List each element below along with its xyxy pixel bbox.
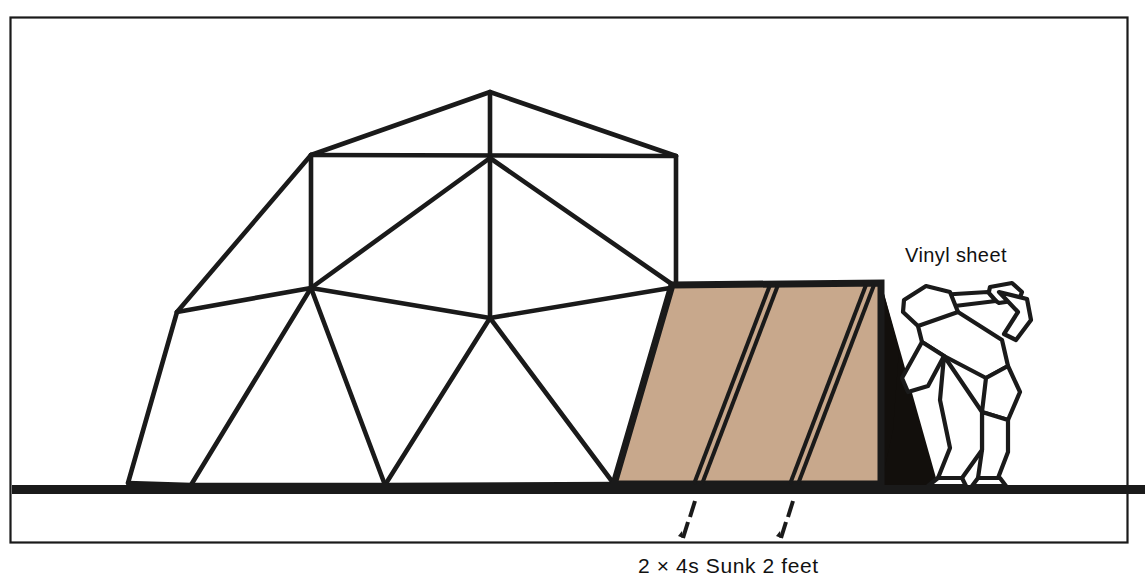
vinyl-sheet-label: Vinyl sheet [905,244,1007,266]
strut-base-a [128,483,191,485]
ground-line [12,485,1145,494]
dome-illustration: Vinyl sheet 2 × 4s Sunk 2 feet [0,0,1145,581]
strut-base-c [385,484,614,485]
strut-ridge-span [311,155,676,156]
person-back-foot [928,478,966,486]
person-front-foot [972,478,1006,486]
illustration-canvas: Vinyl sheet 2 × 4s Sunk 2 feet [0,0,1145,581]
studs-caption-label: 2 × 4s Sunk 2 feet [638,554,819,577]
